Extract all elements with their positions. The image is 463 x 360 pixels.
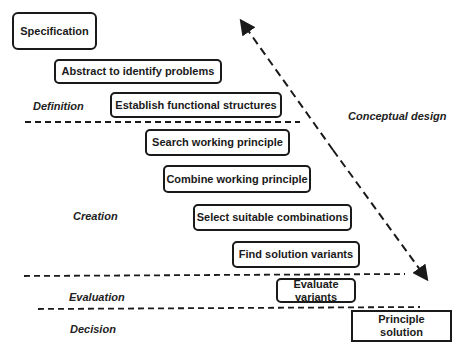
abstract-box: Abstract to identify problems — [54, 59, 222, 84]
conceptual-design-label: Conceptual design — [348, 110, 446, 122]
phase-decision: Decision — [70, 323, 116, 335]
evaluate-box: Evaluate variants — [276, 278, 356, 303]
phase-definition: Definition — [33, 100, 84, 112]
search-box: Search working principle — [145, 129, 290, 156]
creation-divider — [24, 274, 405, 276]
specification-box: Specification — [12, 12, 97, 50]
phase-creation: Creation — [73, 210, 118, 222]
combine-box: Combine working principle — [163, 165, 311, 193]
establish-box: Establish functional structures — [110, 92, 282, 118]
evaluation-divider — [38, 307, 420, 309]
select-box: Select suitable combinations — [193, 204, 352, 231]
principle-solution-box: Principle solution — [351, 310, 452, 342]
phase-evaluation: Evaluation — [69, 291, 125, 303]
find-box: Find solution variants — [232, 241, 360, 268]
